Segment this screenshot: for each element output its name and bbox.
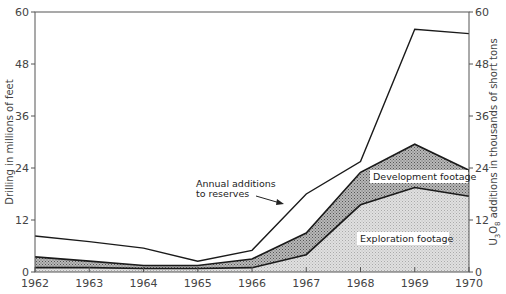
y-tick-label-left: 60	[15, 6, 29, 19]
x-tick-label: 1964	[130, 277, 158, 290]
y-tick-label-right: 12	[475, 214, 489, 227]
svg-text:Development footage: Development footage	[373, 171, 477, 182]
x-tick-label: 1969	[401, 277, 429, 290]
y-tick-label-right: 24	[475, 162, 489, 175]
y-tick-label-left: 48	[15, 58, 29, 71]
x-tick-label: 1968	[347, 277, 375, 290]
annotation-annual-additions: Annual additions to reserves	[196, 178, 284, 205]
y-tick-label-right: 48	[475, 58, 489, 71]
x-tick-label: 1967	[292, 277, 320, 290]
x-tick-label: 1962	[21, 277, 49, 290]
svg-text:to reserves: to reserves	[196, 188, 249, 199]
x-tick-label: 1965	[184, 277, 212, 290]
y-tick-label-left: 24	[15, 162, 29, 175]
y-tick-label-right: 36	[475, 110, 489, 123]
annotation-development: Development footage	[370, 170, 477, 183]
svg-text:Exploration footage: Exploration footage	[360, 233, 454, 244]
y-tick-label-right: 60	[475, 6, 489, 19]
x-tick-label: 1963	[75, 277, 103, 290]
y-axis-right-title: U3O8 additions in thousands of short ton…	[488, 38, 502, 245]
y-axis-left-title: Drilling in millions of feet	[4, 79, 15, 204]
y-tick-label-left: 36	[15, 110, 29, 123]
chart: 0012122424363648486060196219631964196519…	[0, 0, 506, 294]
annotation-exploration: Exploration footage	[357, 232, 454, 245]
y-tick-label-left: 12	[15, 214, 29, 227]
x-tick-label: 1970	[455, 277, 483, 290]
x-tick-label: 1966	[238, 277, 266, 290]
